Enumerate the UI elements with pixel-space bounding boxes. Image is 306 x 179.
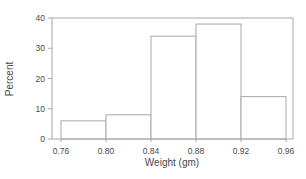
- histogram-bar: [61, 121, 106, 139]
- y-tick-label: 20: [36, 74, 46, 84]
- x-tick-label: 0.76: [53, 146, 70, 156]
- x-tick-label: 0.88: [188, 146, 205, 156]
- y-tick-label: 0: [40, 134, 45, 144]
- histogram-chart: Weight (gm) Percent 0102030400.760.800.8…: [0, 0, 306, 179]
- plot-canvas: Weight (gm) Percent 0102030400.760.800.8…: [0, 0, 306, 179]
- x-tick-label: 0.96: [278, 146, 295, 156]
- histogram-bar: [151, 36, 196, 139]
- x-tick-label: 0.80: [98, 146, 115, 156]
- histogram-bar: [196, 24, 241, 139]
- histogram-bar: [241, 97, 286, 139]
- y-tick-label: 10: [36, 104, 46, 114]
- x-tick-label: 0.92: [233, 146, 250, 156]
- y-tick-label: 30: [36, 43, 46, 53]
- x-tick-label: 0.84: [143, 146, 160, 156]
- x-axis-label: Weight (gm): [145, 157, 199, 168]
- histogram-bar: [106, 115, 151, 139]
- y-tick-label: 40: [36, 13, 46, 23]
- y-axis-label: Percent: [4, 62, 15, 97]
